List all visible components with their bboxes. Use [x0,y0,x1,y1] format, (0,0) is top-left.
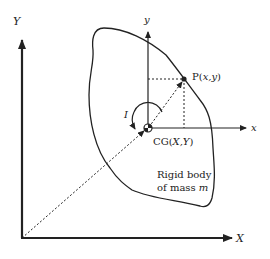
global-x-label: X [235,232,245,245]
center-of-gravity-icon [144,124,152,132]
point-p-marker [181,76,186,81]
global-y-label: Y [13,15,22,28]
cg-label: CG(X,Y) [153,136,193,147]
point-p-label: P(x,y) [192,71,221,82]
rigid-body-diagram: Y X y x P(x,y) CG(X,Y) I Rigid body of m… [0,0,270,259]
body-caption-line2: of mass m [157,182,208,193]
body-y-label: y [143,14,150,25]
body-caption-line1: Rigid body [157,169,212,180]
inertia-label: I [123,109,129,120]
body-x-label: x [251,122,257,133]
cg-to-p-vector [149,82,182,127]
